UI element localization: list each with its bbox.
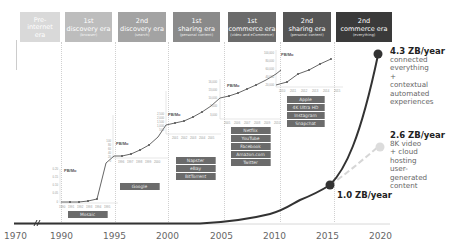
inset-x-tick: 2010	[279, 89, 285, 93]
inset-unit: PB/Mo	[227, 83, 239, 88]
tag-mosaic: Mosaic	[68, 211, 108, 218]
inset-y-tick: 16,000	[203, 80, 217, 84]
inset-y-tick: 0.05	[44, 191, 58, 195]
inset-x-tick: 1993	[86, 205, 92, 209]
inset-unit: PB/Mo	[281, 52, 293, 57]
inset-5-line	[276, 59, 331, 85]
inset-x-tick: 2007	[244, 121, 250, 125]
projection-8k-dashed	[330, 147, 378, 185]
inset-y-tick: 0	[44, 200, 58, 204]
annotation-2020-mid: 2.6 ZB/year 8K video + cloud hosting use…	[390, 130, 445, 190]
inset-x-tick: 1996	[118, 160, 124, 164]
inset-points	[69, 58, 332, 203]
inset-y-tick: 20,000	[260, 83, 274, 87]
inset-x-tick: 2011	[290, 89, 296, 93]
tag-bittorrent: BitTorrent	[176, 173, 216, 180]
inset-x-tick: 1997	[127, 160, 133, 164]
x-tick-2010: 2010	[263, 231, 286, 241]
inset-x-tick: 2015	[334, 89, 340, 93]
inset-y-tick: 0.10	[44, 183, 58, 187]
tag-twitter: Twitter	[231, 159, 271, 166]
tag-netflix: Netflix	[231, 127, 271, 134]
inset-y-tick: 80,000	[260, 59, 274, 63]
inset-y-tick: 100,000	[260, 51, 274, 55]
inset-unit: PB/Mo	[64, 168, 76, 173]
inset-x-tick: 2009	[264, 121, 270, 125]
tag-4k-ultra-hd: 4K Ultra HD	[287, 104, 325, 111]
inset-x-tick: 2013	[312, 89, 318, 93]
tag-napster: Napster	[176, 157, 216, 164]
tag-ebay: eBay	[176, 165, 216, 172]
inset-x-tick: 1991	[68, 205, 74, 209]
tag-facebook: Facebook	[231, 143, 271, 150]
inset-x-tick: 2005	[208, 136, 214, 140]
annotation-text: content	[390, 182, 445, 190]
inset-x-tick: 1999	[145, 160, 151, 164]
tag-amazon: Amazon.com	[231, 151, 271, 158]
point-2015	[326, 181, 335, 190]
main-data-curve	[14, 213, 305, 223]
inset-y-tick: 0	[97, 159, 111, 163]
inset-unit: PB/Mo	[116, 141, 128, 146]
inset-y-tick: 40,000	[260, 75, 274, 79]
inset-x-tick: 2010	[274, 121, 280, 125]
x-tick-2020: 2020	[369, 231, 392, 241]
inset-unit: PB/Mo	[168, 112, 180, 117]
inset-y-tick: 7,000	[203, 104, 217, 108]
annotation-text: experiences	[390, 98, 445, 106]
projection-connected	[330, 55, 378, 185]
annotation-text: everything	[390, 64, 445, 72]
tag-youtube: YouTube	[231, 135, 271, 142]
inset-x-tick: 1994	[95, 205, 101, 209]
x-tick-1995: 1995	[103, 231, 126, 241]
inset-x-tick: 1995	[104, 205, 110, 209]
x-tick-2005: 2005	[210, 231, 233, 241]
inset-y-tick: 0.20	[44, 167, 58, 171]
annotation-2020-high: 4.3 ZB/year connected everything + conte…	[390, 46, 445, 106]
inset-x-tick: 2012	[301, 89, 307, 93]
inset-x-tick: 2004	[199, 136, 205, 140]
inset-x-tick: 1998	[136, 160, 142, 164]
inset-x-tick: 1990	[59, 205, 65, 209]
x-tick-1970: 1970	[4, 231, 27, 241]
annotation-2015: 1.0 ZB/year	[337, 190, 392, 200]
inset-y-tick: 3,000	[203, 113, 217, 117]
inset-x-tick: 1992	[77, 205, 83, 209]
tag-apple: Apple	[287, 96, 325, 103]
point-2020-mid	[376, 143, 385, 152]
x-tick-2000: 2000	[156, 231, 179, 241]
tag-instagram: Instagram	[287, 112, 325, 119]
point-2020-high	[374, 50, 383, 59]
inset-x-tick: 2008	[254, 121, 260, 125]
inset-x-tick: 2014	[323, 89, 329, 93]
inset-y-tick: 13,000	[203, 88, 217, 92]
inset-x-tick: 2000	[154, 160, 160, 164]
inset-x-tick: 2003	[190, 136, 196, 140]
inset-y-tick: 60,000	[260, 67, 274, 71]
tag-google: Google	[120, 183, 160, 190]
inset-y-tick: 10,000	[203, 96, 217, 100]
annotation-value: 1.0 ZB/year	[337, 190, 392, 200]
inset-x-tick: 2006	[234, 121, 240, 125]
inset-y-tick: 500	[150, 128, 164, 132]
inset-x-tick: 2005	[224, 121, 230, 125]
inset-x-tick: 2002	[181, 136, 187, 140]
inset-x-tick: 2001	[172, 136, 178, 140]
tag-snapchat: Snapchat	[287, 120, 325, 127]
x-tick-2015: 2015	[316, 231, 339, 241]
inset-y-tick: 0.15	[44, 175, 58, 179]
x-tick-1990: 1990	[50, 231, 73, 241]
